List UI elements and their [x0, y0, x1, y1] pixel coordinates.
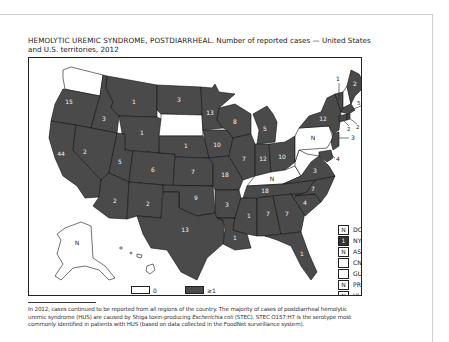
callout-VT: 1 — [336, 75, 340, 82]
label-TX: 13 — [181, 226, 189, 233]
label-MI: 5 — [263, 125, 267, 132]
label-GA: 7 — [285, 210, 289, 217]
footnote: In 2012, cases continued to be reported … — [28, 306, 364, 329]
territory-value-box — [338, 258, 349, 268]
label-IN: 12 — [259, 155, 267, 162]
label-OK: 9 — [194, 194, 198, 201]
label-MS: 1 — [247, 212, 251, 219]
label-CA: 44 — [57, 150, 65, 157]
label-IA: 10 — [213, 141, 221, 148]
label-AZ: 2 — [113, 197, 117, 204]
label-MN: 13 — [206, 109, 214, 116]
label-OR: 15 — [65, 98, 73, 105]
state-SD — [159, 114, 203, 136]
label-LA: 1 — [233, 234, 237, 241]
legend-swatch-zero — [131, 286, 150, 294]
callout-RI: 2 — [356, 124, 360, 130]
label-AK: N — [75, 239, 80, 246]
map-frame: 15 44 3 2 1 1 5 6 2 2 3 1 7 9 13 13 10 1… — [28, 57, 362, 296]
label-ID: 3 — [102, 115, 106, 122]
label-WY: 1 — [140, 129, 144, 136]
label-TN: 18 — [261, 187, 269, 194]
territory-CNMI: CNMI — [338, 257, 362, 268]
label-OH: 10 — [278, 153, 286, 160]
label-PA: N — [311, 134, 316, 141]
territory-GU: GU — [338, 268, 362, 279]
label-NE: 1 — [184, 142, 188, 149]
state-MT — [106, 76, 157, 117]
label-VA: 3 — [313, 167, 317, 174]
callout-CT: 2 — [347, 126, 351, 132]
callout-MD: 4 — [336, 155, 340, 162]
territory-DC: N DC — [338, 224, 362, 235]
callout-MA: 5 — [357, 100, 361, 106]
map-legend: 0 ≥1 — [29, 286, 361, 296]
label-MO: 18 — [221, 171, 229, 178]
label-IL: 7 — [242, 155, 246, 162]
territory-value-box — [338, 269, 349, 279]
label-CO: 6 — [151, 166, 155, 173]
legend-swatch-filled — [185, 286, 204, 294]
label-KS: 7 — [191, 168, 195, 175]
label-AR: 3 — [225, 201, 229, 208]
state-HI — [120, 247, 155, 274]
callout-NJ: 3 — [351, 134, 355, 141]
label-MT: 1 — [132, 98, 136, 105]
legend-one-or-more: ≥1 — [185, 286, 216, 294]
label-WI: 8 — [233, 118, 237, 125]
figure-title: HEMOLYTIC UREMIC SYNDROME, POSTDIARRHEAL… — [28, 36, 378, 54]
label-FL: 1 — [300, 250, 304, 257]
state-FL — [265, 232, 317, 280]
us-map: 15 44 3 2 1 1 5 6 2 2 3 1 7 9 13 13 10 1… — [29, 58, 362, 296]
label-SC: 4 — [303, 199, 307, 206]
label-AL: 7 — [266, 210, 270, 217]
territory-NYC: 1 NYC — [338, 235, 362, 246]
label-NM: 2 — [146, 200, 150, 207]
territory-value-box: N — [338, 225, 349, 235]
state-RI — [347, 114, 350, 120]
label-NY: 12 — [319, 115, 327, 122]
legend-zero: 0 — [131, 286, 157, 294]
territory-value-box: 1 — [338, 236, 349, 246]
label-ND: 3 — [177, 96, 181, 103]
label-NV: 2 — [83, 148, 87, 155]
state-AK — [55, 222, 115, 280]
territory-value-box: N — [338, 247, 349, 257]
label-KY: N — [270, 175, 275, 182]
label-UT: 5 — [118, 158, 122, 165]
state-NM — [127, 182, 163, 219]
label-ME: 2 — [353, 80, 357, 87]
footnote-rule — [28, 302, 96, 303]
label-NC: 7 — [311, 185, 315, 192]
title-disease: HEMOLYTIC UREMIC SYNDROME, POSTDIARRHEAL… — [28, 36, 214, 45]
territory-AS: N AS — [338, 246, 362, 257]
